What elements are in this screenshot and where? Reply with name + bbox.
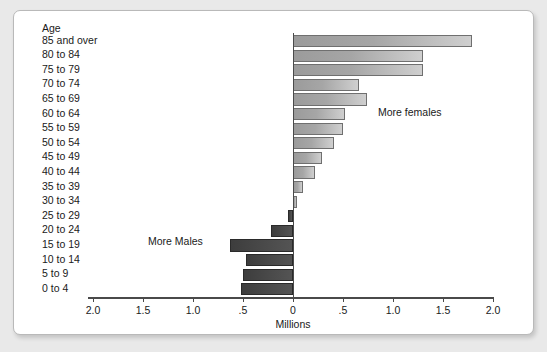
y-axis-header: Age: [42, 22, 61, 34]
bar-male: [271, 225, 293, 237]
bar-male: [246, 254, 293, 266]
bar-male: [230, 239, 293, 251]
x-axis-tick: [443, 297, 444, 302]
y-axis-tick-label: 85 and over: [42, 35, 97, 46]
x-axis-tick: [393, 297, 394, 302]
y-axis-tick-label: 75 to 79: [42, 64, 80, 75]
x-axis-tick-label: 2.0: [86, 304, 101, 316]
y-axis-tick-label: 20 to 24: [42, 224, 80, 235]
bar-female: [293, 152, 322, 164]
y-axis-tick-label: 0 to 4: [42, 283, 68, 294]
x-axis-tick: [343, 297, 344, 302]
y-axis-tick-label: 15 to 19: [42, 239, 80, 250]
y-axis-tick-label: 60 to 64: [42, 108, 80, 119]
x-axis-tick: [293, 297, 294, 302]
x-axis-tick-label: 0: [290, 304, 296, 316]
x-axis-title: Millions: [275, 318, 310, 330]
population-pyramid-chart: Age 85 and over80 to 8475 to 7970 to 746…: [0, 0, 547, 352]
x-axis-tick: [243, 297, 244, 302]
y-axis-tick-label: 35 to 39: [42, 181, 80, 192]
x-axis-tick-label: 1.0: [186, 304, 201, 316]
bar-female: [293, 50, 423, 62]
x-axis-tick: [193, 297, 194, 302]
y-axis-tick-label: 50 to 54: [42, 137, 80, 148]
bar-female: [293, 181, 303, 193]
annotation-more-females: More females: [378, 106, 442, 118]
x-axis-tick-label: 1.5: [136, 304, 151, 316]
chart-page: Age 85 and over80 to 8475 to 7970 to 746…: [0, 0, 547, 352]
bar-female: [293, 93, 367, 105]
y-axis-tick-label: 70 to 74: [42, 78, 80, 89]
y-axis-tick-label: 10 to 14: [42, 254, 80, 265]
x-axis-tick-label: 2.0: [486, 304, 501, 316]
y-axis-tick-label: 30 to 34: [42, 195, 80, 206]
x-axis-line: [88, 297, 493, 299]
zero-reference-line: [293, 33, 294, 297]
y-axis-tick-label: 40 to 44: [42, 166, 80, 177]
bar-female: [293, 108, 345, 120]
bar-female: [293, 64, 423, 76]
y-axis-tick-label: 5 to 9: [42, 268, 68, 279]
y-axis-tick-label: 80 to 84: [42, 49, 80, 60]
bar-female: [293, 137, 334, 149]
bar-female: [293, 79, 359, 91]
x-axis-tick: [143, 297, 144, 302]
annotation-more-males: More Males: [148, 235, 203, 247]
x-axis-tick: [93, 297, 94, 302]
bar-female: [293, 123, 343, 135]
bar-male: [243, 269, 293, 281]
y-axis-tick-label: 25 to 29: [42, 210, 80, 221]
y-axis-tick-label: 65 to 69: [42, 93, 80, 104]
y-axis-tick-label: 45 to 49: [42, 151, 80, 162]
bar-male: [241, 283, 293, 295]
bar-female: [293, 166, 315, 178]
x-axis-tick-label: .5: [239, 304, 248, 316]
x-axis-tick-label: 1.5: [436, 304, 451, 316]
y-axis-tick-label: 55 to 59: [42, 122, 80, 133]
x-axis-tick: [493, 297, 494, 302]
x-axis-tick-label: .5: [339, 304, 348, 316]
bar-female: [293, 35, 472, 47]
x-axis-tick-label: 1.0: [386, 304, 401, 316]
